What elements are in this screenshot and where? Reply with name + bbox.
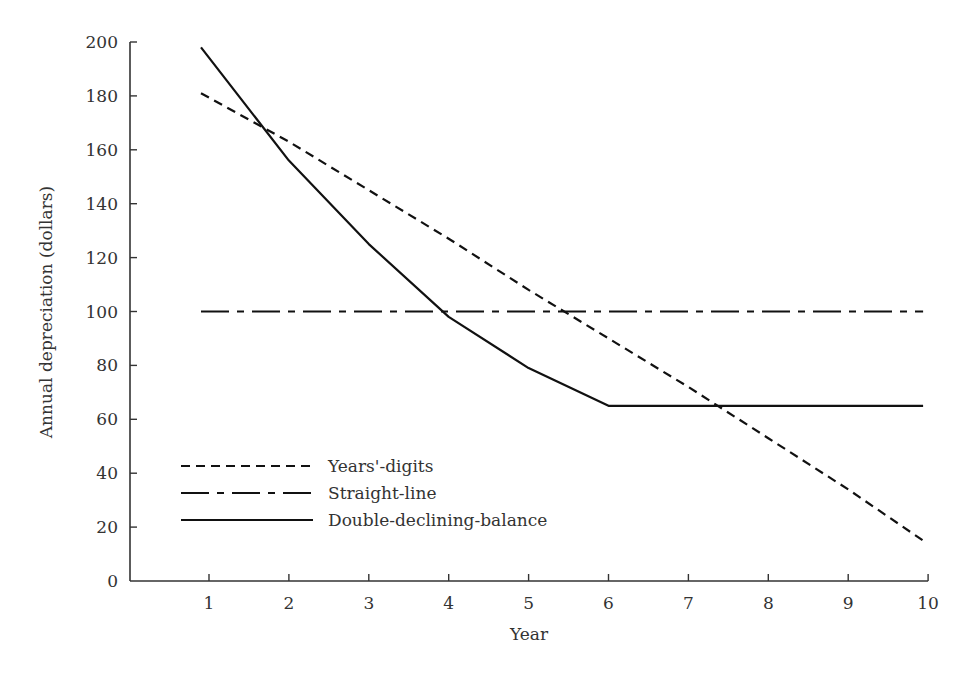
legend: Years'-digitsStraight-lineDouble-declini… xyxy=(181,456,547,530)
y-tick-label: 60 xyxy=(96,409,118,429)
x-tick-label: 3 xyxy=(363,593,374,613)
y-tick-label: 100 xyxy=(86,302,118,322)
x-tick-label: 4 xyxy=(443,593,454,613)
y-tick-label: 200 xyxy=(86,32,118,52)
y-tick-label: 80 xyxy=(96,355,118,375)
x-tick-label: 10 xyxy=(917,593,939,613)
series-line-double-declining-balance xyxy=(201,47,923,405)
x-axis-title: Year xyxy=(509,624,549,644)
x-tick-label: 6 xyxy=(603,593,614,613)
depreciation-chart: 020406080100120140160180200 12345678910 … xyxy=(0,0,972,675)
y-tick-label: 0 xyxy=(107,571,118,591)
y-axis-title: Annual depreciation (dollars) xyxy=(36,186,56,439)
x-tick-label: 2 xyxy=(283,593,294,613)
legend-label: Double-declining-balance xyxy=(328,510,547,530)
x-tick-label: 5 xyxy=(523,593,534,613)
y-tick-label: 140 xyxy=(86,194,118,214)
x-tick-label: 1 xyxy=(204,593,215,613)
legend-label: Years'-digits xyxy=(327,456,433,476)
y-tick-label: 180 xyxy=(86,86,118,106)
x-tick-label: 9 xyxy=(843,593,854,613)
y-tick-label: 120 xyxy=(86,248,118,268)
x-tick-label: 8 xyxy=(763,593,774,613)
legend-label: Straight-line xyxy=(328,483,436,503)
y-tick-label: 20 xyxy=(96,517,118,537)
series-line-years-digits xyxy=(201,93,923,540)
y-tick-label: 40 xyxy=(96,463,118,483)
y-tick-label: 160 xyxy=(86,140,118,160)
x-axis-ticks: 12345678910 xyxy=(204,574,939,613)
x-tick-label: 7 xyxy=(683,593,694,613)
